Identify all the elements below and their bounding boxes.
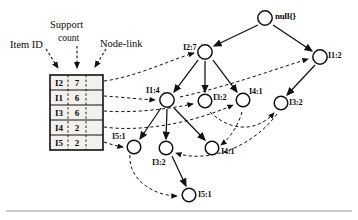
label-support-top: Support — [50, 20, 83, 31]
header-row-0-count: 7 — [68, 79, 86, 88]
header-row-0-item: I2 — [50, 79, 68, 88]
header-row-3-count: 2 — [68, 124, 86, 133]
node-label-i5-1-a: I5:1 — [112, 133, 125, 141]
node-label-i1-2: I1:2 — [328, 52, 341, 60]
node-label-i4-1-b: I4:1 — [221, 148, 234, 156]
header-row-3-item: I4 — [50, 124, 68, 133]
header-row-4-item: I5 — [50, 139, 68, 148]
node-label-i4-1-a: I4:1 — [249, 88, 262, 96]
node-label-i3-2-a: I3:2 — [213, 94, 226, 102]
node-label-i5-1-b: I5:1 — [198, 191, 211, 199]
header-row-1-count: 6 — [68, 94, 86, 103]
header-row-2-item: I3 — [50, 109, 68, 118]
node-label-i1-4: I1:4 — [146, 87, 159, 95]
header-row-1-item: I1 — [50, 94, 68, 103]
node-label-i2-7: I2:7 — [183, 44, 196, 52]
header-row-4-count: 2 — [68, 139, 86, 148]
label-node-link: Node-link — [100, 39, 143, 50]
node-label-i3-2-c: I3:2 — [152, 159, 165, 167]
node-label-root: null{} — [275, 12, 296, 21]
header-row-2-count: 6 — [68, 109, 86, 118]
fp-tree-figure: Item ID Support count Node-link I2 7 I1 … — [0, 0, 358, 220]
node-label-i3-2-b: I3:2 — [289, 99, 302, 107]
label-item-id: Item ID — [10, 40, 43, 51]
label-support-bottom: count — [58, 34, 79, 44]
